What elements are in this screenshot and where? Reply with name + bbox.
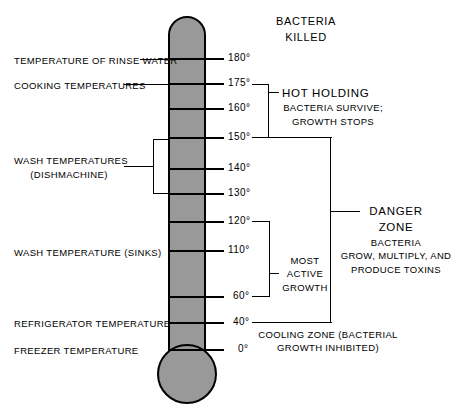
bracket-most-active-top [252,221,270,222]
most-active-line1: MOST [278,254,332,267]
hot-holding-title: HOT HOLDING [268,85,398,101]
tick-label-60: 60° [233,291,249,301]
hot-holding-line3: GROWTH STOPS [268,115,398,128]
label-wash-dishmachine-line2: (DISHMACHINE) [14,168,124,182]
tick-40 [168,322,224,324]
tick-130 [168,193,224,195]
bracket-wash-dishmachine-bottom [153,193,168,194]
leader-rinse-water [140,59,168,60]
most-active-line3: GROWTH [278,281,332,294]
danger-zone-line5: PRODUCE TOXINS [340,263,452,276]
tick-label-150: 150° [228,132,250,142]
tick-110 [168,250,224,252]
tick-0 [168,349,224,351]
bracket-danger-zone-spine [330,137,331,323]
bacteria-killed-header: BACTERIA KILLED [246,14,366,45]
tick-label-120: 120° [228,216,250,226]
leader-cooking [124,84,168,85]
annotation-most-active-growth: MOST ACTIVE GROWTH [278,254,332,294]
tick-label-160: 160° [228,103,250,113]
tick-label-140: 140° [228,163,250,173]
thermometer-tube [168,16,206,364]
tick-label-175: 175° [228,78,250,88]
annotation-danger-zone: DANGER ZONE BACTERIA GROW, MULTIPLY, AND… [340,203,452,276]
tick-60 [168,296,224,298]
tick-label-130: 130° [228,188,250,198]
annotation-cooling-zone: COOLING ZONE (BACTERIAL GROWTH INHIBITED… [258,328,398,355]
bracket-wash-dishmachine-top [153,139,168,140]
thermometer-diagram: BACTERIA KILLED 180° 175° 160° 150° 140°… [0,0,457,416]
tick-140 [168,168,224,170]
tick-label-110: 110° [228,245,250,255]
danger-zone-line4: GROW, MULTIPLY, AND [340,249,452,262]
bacteria-killed-line1: BACTERIA [246,14,366,30]
label-cooking: COOKING TEMPERATURES [14,79,146,93]
tick-label-0: 0° [238,344,248,354]
cooling-zone-line1: COOLING ZONE (BACTERIAL [258,328,398,341]
tick-label-180: 180° [228,53,250,63]
tick-175 [168,83,224,85]
thermometer-bulb [157,344,217,404]
tick-160 [168,108,224,110]
label-refrigerator: REFRIGERATOR TEMPERATURE [14,317,171,331]
most-active-line2: ACTIVE [278,267,332,280]
bracket-most-active-bottom [252,296,270,297]
tick-120 [168,221,224,223]
leader-wash-dishmachine [124,166,153,167]
label-rinse-water: TEMPERATURE OF RINSE WATER [14,54,178,68]
danger-zone-title-line2: ZONE [340,219,452,235]
bracket-wash-dishmachine-spine [153,139,154,193]
danger-zone-line3: BACTERIA [340,236,452,249]
label-wash-dishmachine-line1: WASH TEMPERATURES [14,154,124,168]
bracket-most-active-spine [269,221,270,296]
tick-label-40: 40° [233,317,249,327]
cooling-zone-line2: GROWTH INHIBITED) [258,341,398,354]
tick-150 [168,137,224,139]
label-wash-dishmachine: WASH TEMPERATURES (DISHMACHINE) [14,154,124,182]
bracket-danger-zone-top [252,137,332,138]
danger-zone-title-line1: DANGER [340,203,452,219]
bracket-hot-holding-top [252,84,269,85]
annotation-hot-holding: HOT HOLDING BACTERIA SURVIVE; GROWTH STO… [268,85,398,128]
hot-holding-line2: BACTERIA SURVIVE; [268,101,398,114]
bacteria-killed-line2: KILLED [246,30,366,46]
label-freezer: FREEZER TEMPERATURE [14,344,139,358]
label-wash-sinks: WASH TEMPERATURE (SINKS) [14,246,162,260]
bracket-danger-zone-bottom [252,322,332,323]
